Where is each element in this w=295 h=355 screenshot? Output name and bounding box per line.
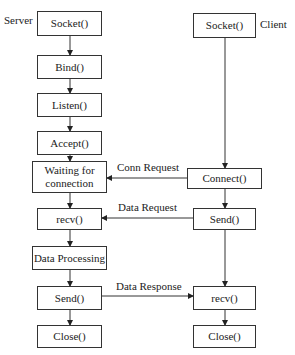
server-waiting-box: Waiting for connection	[32, 161, 107, 193]
server-close-box: Close()	[37, 325, 102, 348]
data-response-label: Data Response	[116, 280, 182, 292]
client-send-box: Send()	[193, 208, 256, 230]
server-send-box: Send()	[37, 286, 102, 310]
server-data-processing-box: Data Processing	[32, 246, 107, 270]
server-recv-box: recv()	[37, 208, 102, 230]
client-socket-box: Socket()	[193, 13, 256, 38]
client-close-box: Close()	[193, 325, 256, 348]
conn-request-label: Conn Request	[117, 161, 179, 173]
data-request-label: Data Request	[118, 201, 177, 213]
client-label: Client	[260, 18, 287, 30]
server-label: Server	[4, 14, 33, 26]
server-socket-box: Socket()	[37, 11, 102, 36]
client-recv-box: recv()	[193, 286, 256, 310]
client-connect-box: Connect()	[187, 168, 262, 189]
server-listen-box: Listen()	[37, 93, 102, 117]
server-bind-box: Bind()	[37, 55, 102, 79]
server-accept-box: Accept()	[37, 131, 102, 155]
